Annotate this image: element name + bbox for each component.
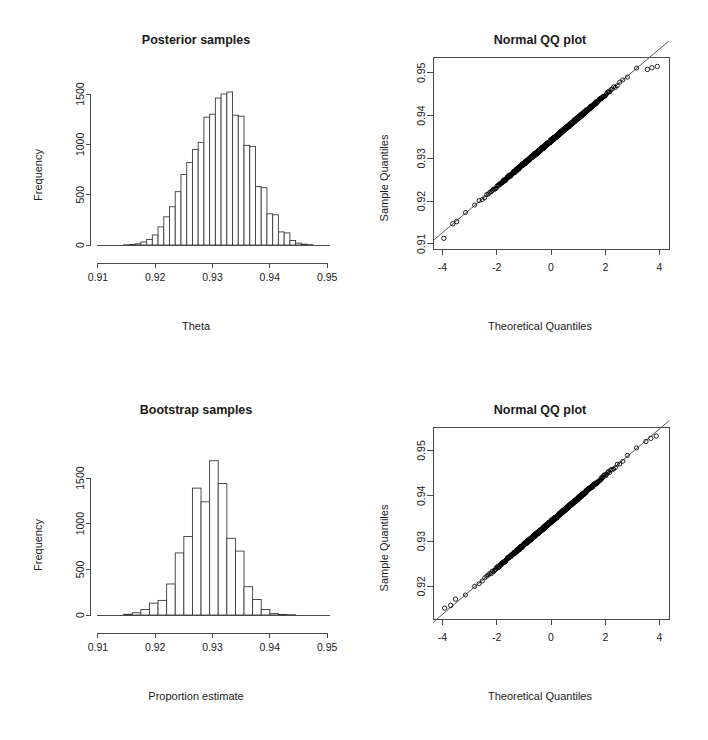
bootstrap-qq-svg: Normal QQ plot Theoretical Quantiles Sam…: [354, 370, 708, 740]
y-tick-label: 500: [74, 186, 86, 204]
panel-title: Posterior samples: [142, 33, 250, 47]
histogram-bar: [201, 502, 210, 615]
panel-posterior-qqplot: Normal QQ plot Theoretical Quantiles Sam…: [354, 0, 708, 370]
qq-tail-point: [442, 236, 446, 240]
y-axis-title: Sample Quantiles: [378, 504, 390, 591]
x-tick-label: -4: [438, 631, 447, 643]
y-tick-label: 0: [74, 242, 86, 248]
y-axis-title: Frequency: [32, 149, 44, 201]
histogram-bar: [198, 142, 204, 245]
x-tick-label: 0.91: [88, 641, 109, 653]
histogram-bar: [238, 116, 244, 245]
histogram-bar: [290, 240, 296, 245]
qq-tail-point: [650, 65, 654, 69]
x-tick-label: 0: [548, 631, 554, 643]
histogram-bar: [227, 538, 236, 615]
histogram-bar: [273, 215, 279, 245]
posterior-histogram-svg: Posterior samples Theta Frequency 050010…: [0, 0, 354, 370]
histogram-bar: [175, 553, 184, 615]
histogram-bar: [187, 162, 193, 245]
y-axis-title: Frequency: [32, 519, 44, 571]
histogram-bar: [235, 551, 244, 615]
panel-bootstrap-histogram: Bootstrap samples Proportion estimate Fr…: [0, 370, 354, 740]
histogram-bar: [192, 149, 198, 245]
histogram-bar: [164, 217, 170, 245]
plot-area: 0.910.920.930.940.95-4-2024: [415, 41, 669, 273]
x-tick-label: 0.93: [202, 641, 223, 653]
histogram-bar: [152, 235, 158, 245]
qq-tail-point: [655, 64, 659, 68]
plot-area: 0500100015000.910.920.930.940.95: [74, 461, 338, 653]
histogram-bar: [250, 146, 256, 245]
x-tick-label: 0.93: [202, 271, 223, 283]
y-tick-label: 0.94: [415, 485, 427, 506]
histogram-bar: [184, 537, 193, 616]
y-tick-label: 0.95: [415, 440, 427, 461]
histogram-bar: [278, 232, 284, 245]
x-tick-label: 2: [602, 261, 608, 273]
y-tick-label: 1500: [74, 466, 86, 490]
y-tick-label: 1000: [74, 512, 86, 536]
histogram-bar: [149, 603, 158, 615]
y-tick-label: 500: [74, 560, 86, 578]
x-tick-label: -4: [438, 261, 447, 273]
histogram-bar: [267, 214, 273, 245]
x-tick-label: 0: [548, 261, 554, 273]
histogram-bar: [175, 192, 181, 245]
y-tick-label: 0.95: [415, 62, 427, 83]
histogram-bar: [244, 587, 253, 615]
histogram-bar: [158, 600, 167, 615]
y-tick-label: 0: [74, 612, 86, 618]
y-tick-label: 0.93: [415, 531, 427, 552]
x-tick-label: -2: [492, 261, 501, 273]
histogram-bar: [253, 599, 262, 615]
bootstrap-histogram-svg: Bootstrap samples Proportion estimate Fr…: [0, 370, 354, 740]
histogram-bar: [218, 484, 227, 615]
panel-posterior-histogram: Posterior samples Theta Frequency 050010…: [0, 0, 354, 370]
histogram-bar: [244, 145, 250, 245]
x-tick-label: -2: [492, 631, 501, 643]
panel-title: Normal QQ plot: [494, 403, 587, 417]
histogram-bar: [261, 610, 270, 615]
histogram-bar: [233, 115, 239, 245]
qq-tail-point: [442, 606, 446, 610]
histogram-bar: [204, 117, 210, 245]
histogram-bar: [210, 114, 216, 245]
histogram-bar: [210, 461, 219, 615]
histogram-bar: [215, 98, 221, 245]
x-tick-label: 4: [657, 261, 663, 273]
y-axis-line: [86, 478, 90, 615]
figure-canvas: Posterior samples Theta Frequency 050010…: [0, 0, 708, 740]
y-tick-label: 1000: [74, 133, 86, 157]
histogram-bar: [192, 488, 201, 615]
histogram-bar: [141, 610, 150, 615]
x-tick-label: 0.95: [317, 641, 338, 653]
plot-area: 0500100015000.910.920.930.940.95: [74, 82, 338, 283]
qq-point: [634, 446, 638, 450]
plot-area: 0.920.930.940.95-4-2024: [415, 421, 669, 643]
histogram-bar: [255, 187, 261, 245]
x-tick-label: 2: [602, 631, 608, 643]
x-tick-label: 0.95: [317, 271, 338, 283]
qq-tail-point: [453, 597, 457, 601]
x-axis-title: Theoretical Quantiles: [488, 690, 592, 702]
histogram-bar: [284, 233, 290, 245]
qq-point-cloud: [463, 66, 638, 215]
panel-title: Bootstrap samples: [140, 403, 253, 417]
x-tick-label: 4: [657, 631, 663, 643]
histogram-bar: [261, 188, 267, 245]
plot-box-border: [433, 57, 669, 249]
x-tick-label: 0.91: [88, 271, 109, 283]
panel-title: Normal QQ plot: [494, 33, 587, 47]
panel-bootstrap-qqplot: Normal QQ plot Theoretical Quantiles Sam…: [354, 370, 708, 740]
posterior-qq-svg: Normal QQ plot Theoretical Quantiles Sam…: [354, 0, 708, 370]
x-tick-label: 0.94: [260, 271, 281, 283]
y-tick-label: 0.92: [415, 576, 427, 597]
x-axis-title: Theoretical Quantiles: [488, 320, 592, 332]
y-tick-label: 0.94: [415, 105, 427, 126]
histogram-bar: [227, 92, 233, 245]
qq-tail-point: [645, 67, 649, 71]
x-axis-title: Proportion estimate: [148, 690, 243, 702]
x-tick-label: 0.94: [260, 641, 281, 653]
x-tick-label: 0.92: [145, 641, 166, 653]
